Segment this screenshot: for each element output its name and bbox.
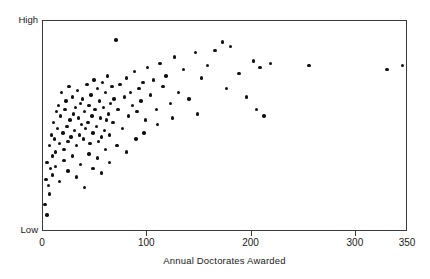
x-axis-tick bbox=[146, 231, 147, 236]
data-point bbox=[103, 129, 106, 132]
data-point bbox=[52, 121, 55, 124]
y-axis-high-label: High bbox=[2, 15, 38, 25]
data-point bbox=[57, 104, 60, 107]
data-point bbox=[237, 72, 240, 75]
data-point bbox=[118, 83, 121, 86]
data-point bbox=[71, 95, 74, 98]
data-point bbox=[129, 91, 132, 94]
data-point bbox=[108, 133, 111, 136]
x-axis-tick-label: 0 bbox=[39, 237, 45, 248]
data-points-layer bbox=[43, 21, 406, 230]
data-point bbox=[115, 144, 118, 147]
data-point bbox=[81, 97, 84, 100]
data-point bbox=[258, 66, 261, 69]
data-point bbox=[95, 125, 98, 128]
data-point bbox=[45, 161, 48, 164]
data-point bbox=[93, 108, 96, 111]
data-point bbox=[50, 133, 53, 136]
data-point bbox=[245, 95, 248, 98]
data-point bbox=[385, 68, 388, 71]
data-point bbox=[61, 131, 64, 134]
data-point bbox=[67, 85, 70, 88]
data-point bbox=[155, 108, 158, 111]
data-point bbox=[109, 102, 112, 105]
data-point bbox=[60, 91, 63, 94]
data-point bbox=[62, 148, 65, 151]
data-point bbox=[92, 78, 95, 81]
data-point bbox=[269, 62, 272, 65]
data-point bbox=[74, 106, 77, 109]
data-point bbox=[87, 152, 90, 155]
data-point bbox=[114, 38, 117, 41]
data-point bbox=[75, 144, 78, 147]
data-point bbox=[135, 110, 138, 113]
data-point bbox=[171, 116, 174, 119]
x-axis-tick-label: 200 bbox=[242, 237, 259, 248]
data-point bbox=[98, 99, 101, 102]
data-point bbox=[45, 213, 48, 216]
data-point bbox=[194, 51, 197, 54]
data-point bbox=[142, 131, 145, 134]
data-point bbox=[152, 78, 155, 81]
data-point bbox=[169, 102, 172, 105]
data-point bbox=[116, 108, 119, 111]
data-point bbox=[182, 68, 185, 71]
x-axis-tick bbox=[251, 231, 252, 236]
data-point bbox=[105, 118, 108, 121]
data-point bbox=[91, 167, 94, 170]
data-point bbox=[75, 175, 78, 178]
data-point bbox=[108, 161, 111, 164]
data-point bbox=[43, 203, 46, 206]
x-axis-tick-label: 100 bbox=[138, 237, 155, 248]
data-point bbox=[80, 123, 83, 126]
data-point bbox=[51, 154, 54, 157]
data-point bbox=[131, 104, 134, 107]
data-point bbox=[146, 66, 149, 69]
data-point bbox=[200, 76, 203, 79]
data-point bbox=[139, 99, 142, 102]
data-point bbox=[78, 133, 81, 136]
data-point bbox=[82, 137, 85, 140]
data-point bbox=[137, 87, 140, 90]
data-point bbox=[66, 169, 69, 172]
data-point bbox=[96, 156, 99, 159]
data-point bbox=[88, 142, 91, 145]
data-point bbox=[85, 83, 88, 86]
data-point bbox=[144, 118, 147, 121]
data-point bbox=[89, 93, 92, 96]
data-point bbox=[84, 127, 87, 130]
data-point bbox=[177, 91, 180, 94]
data-point bbox=[79, 102, 82, 105]
data-point bbox=[49, 167, 52, 170]
data-point bbox=[73, 129, 76, 132]
data-point bbox=[68, 118, 71, 121]
data-point bbox=[69, 135, 72, 138]
data-point bbox=[100, 135, 103, 138]
data-point bbox=[187, 97, 190, 100]
data-point bbox=[99, 116, 102, 119]
data-point bbox=[125, 76, 128, 79]
data-point bbox=[141, 81, 144, 84]
data-point bbox=[127, 114, 130, 117]
data-point bbox=[76, 89, 79, 92]
data-point bbox=[97, 140, 100, 143]
data-point bbox=[48, 144, 51, 147]
data-point bbox=[123, 95, 126, 98]
data-point bbox=[164, 74, 167, 77]
data-point bbox=[48, 192, 51, 195]
plot-area bbox=[42, 20, 407, 231]
scatter-plot-figure: High Low Institutional Quality Rating 01… bbox=[0, 0, 430, 279]
data-point bbox=[86, 121, 89, 124]
data-point bbox=[101, 81, 104, 84]
data-point bbox=[58, 142, 61, 145]
data-point bbox=[255, 108, 258, 111]
data-point bbox=[125, 150, 128, 153]
data-point bbox=[229, 45, 232, 48]
data-point bbox=[66, 140, 69, 143]
data-point bbox=[72, 112, 75, 115]
data-point bbox=[206, 64, 209, 67]
data-point bbox=[56, 127, 59, 130]
data-point bbox=[58, 180, 61, 183]
data-point bbox=[65, 125, 68, 128]
data-point bbox=[133, 70, 136, 73]
